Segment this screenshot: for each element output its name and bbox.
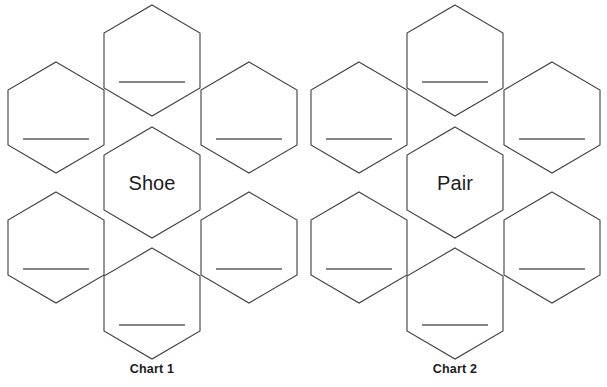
hex-cell-lower-right[interactable] (200, 191, 298, 304)
hex-cell-lower-left[interactable] (310, 191, 408, 304)
hex-answer-text (200, 191, 298, 304)
hex-cell-upper-right[interactable] (503, 61, 601, 174)
hex-cell-upper-left[interactable] (7, 61, 105, 174)
hex-answer-text (7, 61, 105, 174)
hex-answer-text (200, 61, 298, 174)
hex-cell-center: Pair (406, 126, 504, 239)
hex-cell-upper-left[interactable] (310, 61, 408, 174)
hex-cell-upper-right[interactable] (200, 61, 298, 174)
hex-answer-text (103, 4, 201, 117)
hex-answer-text (503, 61, 601, 174)
hex-cell-top[interactable] (406, 4, 504, 117)
chart-label: Chart 2 (303, 362, 607, 376)
hex-cluster-1: Shoe (0, 0, 304, 360)
hexagon-worksheet: Shoe (0, 0, 607, 387)
chart-group-2: Pair (303, 0, 607, 387)
hex-answer-text (406, 247, 504, 360)
hex-cell-bottom[interactable] (103, 247, 201, 360)
hex-answer-text (7, 191, 105, 304)
hex-answer-text (310, 191, 408, 304)
hex-answer-text (503, 191, 601, 304)
hex-cell-lower-left[interactable] (7, 191, 105, 304)
hex-cluster-2: Pair (303, 0, 607, 360)
center-word: Shoe (103, 126, 201, 239)
hex-cell-bottom[interactable] (406, 247, 504, 360)
hex-answer-text (406, 4, 504, 117)
chart-label: Chart 1 (0, 362, 304, 376)
hex-cell-center: Shoe (103, 126, 201, 239)
hex-answer-text (310, 61, 408, 174)
chart-group-1: Shoe (0, 0, 304, 387)
hex-cell-lower-right[interactable] (503, 191, 601, 304)
hex-cell-top[interactable] (103, 4, 201, 117)
hex-answer-text (103, 247, 201, 360)
center-word: Pair (406, 126, 504, 239)
